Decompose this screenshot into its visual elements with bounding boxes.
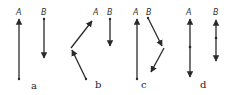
panel-d: A B d [185,8,219,90]
panel-label-b: b [95,79,101,90]
point-label-b-B: B [107,8,113,17]
point-label-b-A: A [92,8,98,17]
point-label-c-A: A [132,8,138,17]
vector-B2-icon [151,48,164,72]
point-label-a-A: A [15,8,21,17]
point-label-d-A: A [185,8,191,17]
vector-A1-icon [72,50,86,79]
vector-A2-icon [71,21,92,48]
panel-b: A B b [71,8,113,90]
panel-label-c: c [141,79,147,90]
point-label-d-B: B [213,8,219,17]
panel-label-d: d [200,79,207,90]
panel-a: A B a [15,8,47,91]
vector-B1-icon [148,18,162,46]
point-label-c-B: B [146,8,152,17]
panel-label-a: a [31,80,37,91]
point-label-a-B: B [41,8,47,17]
panel-c: A B c [132,8,164,90]
vector-diagram: A B a A B b A B c A B d [0,0,233,95]
